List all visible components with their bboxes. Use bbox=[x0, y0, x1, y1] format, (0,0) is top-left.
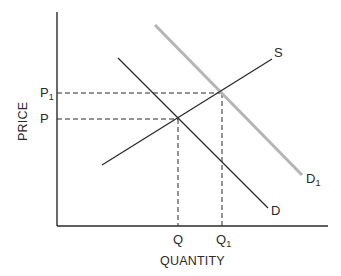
quantity-q-label: Q bbox=[173, 233, 183, 246]
quantity-q1-label: Q1 bbox=[216, 233, 231, 249]
demand-label: D bbox=[271, 204, 280, 217]
supply-demand-diagram bbox=[0, 0, 341, 276]
supply-curve bbox=[102, 59, 272, 165]
demand-shifted-label: D1 bbox=[306, 172, 320, 188]
supply-label: S bbox=[274, 46, 283, 59]
x-axis-title: QUANTITY bbox=[160, 254, 225, 268]
price-p1-label: P1 bbox=[40, 86, 54, 102]
price-p-label: P bbox=[40, 112, 49, 125]
y-axis-title: PRICE bbox=[16, 102, 30, 141]
demand-curve bbox=[118, 58, 268, 208]
